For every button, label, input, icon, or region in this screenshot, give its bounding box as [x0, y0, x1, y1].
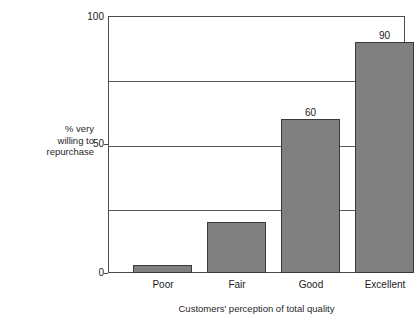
y-axis-ticks: 100 50 0: [62, 0, 104, 326]
bar-fair[interactable]: [207, 222, 266, 273]
bar-value-excellent: 90: [356, 29, 413, 42]
bar-value-good: 60: [282, 106, 339, 119]
y-tick-label-100: 100: [64, 12, 104, 22]
x-tick-label-good: Good: [271, 278, 351, 291]
bars-layer: 60 90: [108, 16, 405, 273]
bar-poor[interactable]: [133, 265, 192, 273]
bar-excellent[interactable]: 90: [355, 42, 414, 273]
x-axis-ticks: Poor Fair Good Excellent: [108, 278, 405, 294]
bar-good[interactable]: 60: [281, 119, 340, 273]
y-tick-label-50: 50: [64, 139, 104, 149]
x-tick-label-fair: Fair: [197, 278, 277, 291]
y-tick-mark-0: [104, 273, 108, 274]
y-tick-label-0: 0: [64, 268, 104, 278]
bar-chart: % very willing to repurchase 100 50 0 60…: [0, 0, 417, 326]
x-tick-label-excellent: Excellent: [345, 278, 417, 291]
x-tick-label-poor: Poor: [123, 278, 203, 291]
x-axis-title: Customers' perception of total quality: [108, 303, 405, 315]
